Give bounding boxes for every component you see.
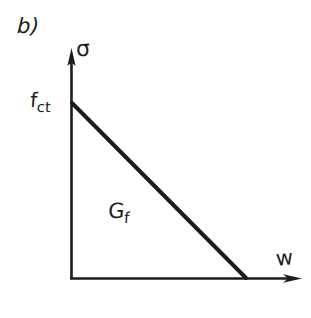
fct-subscript: ct: [36, 99, 51, 115]
figure-drawing: [0, 0, 311, 318]
figure-panel: b) σ fct Gf w: [0, 0, 311, 318]
panel-label: b): [16, 16, 40, 37]
x-axis-label-w: w: [275, 247, 294, 269]
y-axis-label-sigma: σ: [75, 38, 90, 61]
gf-label: Gf: [107, 201, 131, 226]
fct-label: fct: [29, 90, 52, 114]
softening-curve: [72, 103, 246, 278]
